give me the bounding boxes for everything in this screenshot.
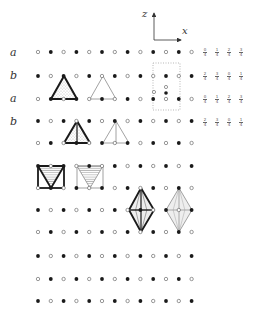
atom-filled bbox=[151, 186, 155, 190]
atom-open bbox=[36, 141, 39, 144]
atom-open bbox=[75, 74, 78, 77]
atom-open bbox=[177, 164, 180, 167]
atom-open bbox=[152, 74, 155, 77]
atom-filled bbox=[139, 299, 143, 303]
atom-open bbox=[88, 230, 91, 233]
atom-filled bbox=[139, 208, 143, 212]
atom-open bbox=[88, 186, 91, 189]
atom-filled bbox=[100, 50, 104, 54]
atom-open bbox=[139, 277, 142, 280]
tetrahedron-bold-1 bbox=[51, 76, 77, 99]
row-label: a bbox=[10, 93, 17, 104]
atom-open bbox=[164, 230, 167, 233]
atom-open bbox=[36, 230, 39, 233]
fraction-denominator: 4 bbox=[238, 53, 244, 57]
atom-filled bbox=[100, 230, 104, 234]
atom-filled bbox=[177, 141, 181, 145]
atom-filled bbox=[49, 230, 53, 234]
atom-open bbox=[190, 141, 193, 144]
atom-open bbox=[100, 254, 103, 257]
atom-open bbox=[100, 74, 103, 77]
atom-open bbox=[113, 186, 116, 189]
height-fraction: 04 bbox=[202, 95, 208, 104]
atom-filled bbox=[113, 119, 117, 123]
atom-open bbox=[88, 97, 91, 100]
atom-filled bbox=[177, 97, 181, 101]
atom-open bbox=[49, 119, 52, 122]
atom-filled bbox=[100, 186, 104, 190]
atom-open bbox=[62, 141, 65, 144]
atom-filled bbox=[126, 50, 130, 54]
atom-open bbox=[113, 50, 116, 53]
atom-open bbox=[88, 141, 91, 144]
atom-filled bbox=[126, 277, 130, 281]
atom-open bbox=[62, 277, 65, 280]
atom-filled bbox=[151, 230, 155, 234]
atom-filled bbox=[139, 254, 143, 258]
atom-open bbox=[62, 50, 65, 53]
atom-filled bbox=[139, 74, 143, 78]
atom-open bbox=[139, 97, 142, 100]
crystal-diagram: z x a b a b 0414243424340414041424342434… bbox=[0, 0, 255, 312]
atom-filled bbox=[87, 164, 91, 168]
height-fraction: 14 bbox=[214, 48, 220, 57]
atom-open bbox=[113, 97, 116, 100]
height-fraction: 14 bbox=[214, 95, 220, 104]
height-fraction: 04 bbox=[202, 48, 208, 57]
atom-open bbox=[36, 97, 39, 100]
atom-open bbox=[126, 254, 129, 257]
square-thin-inverted-triangle bbox=[77, 166, 103, 188]
atom-filled bbox=[164, 91, 168, 95]
atom-filled bbox=[151, 141, 155, 145]
atom-filled bbox=[190, 208, 194, 212]
fraction-denominator: 4 bbox=[226, 123, 232, 127]
atom-filled bbox=[100, 97, 104, 101]
fraction-denominator: 4 bbox=[214, 77, 220, 81]
atom-filled bbox=[75, 50, 79, 54]
atom-open bbox=[190, 186, 193, 189]
atom-open bbox=[177, 299, 180, 302]
atom-filled bbox=[87, 74, 91, 78]
fraction-denominator: 4 bbox=[238, 77, 244, 81]
atom-open bbox=[190, 277, 193, 280]
atom-open bbox=[100, 299, 103, 302]
row-label: b bbox=[10, 70, 17, 81]
fraction-denominator: 4 bbox=[226, 53, 232, 57]
atom-open bbox=[177, 119, 180, 122]
atom-open bbox=[49, 74, 52, 77]
atom-filled bbox=[62, 299, 66, 303]
atom-filled bbox=[113, 254, 117, 258]
atom-open bbox=[36, 50, 39, 53]
z-axis-label: z bbox=[142, 9, 147, 19]
atom-filled bbox=[164, 164, 168, 168]
atom-open bbox=[164, 85, 167, 88]
fraction-denominator: 4 bbox=[238, 123, 244, 127]
fraction-denominator: 4 bbox=[202, 123, 208, 127]
atom-filled bbox=[139, 164, 143, 168]
fraction-denominator: 4 bbox=[214, 100, 220, 104]
atom-filled bbox=[164, 299, 168, 303]
atom-open bbox=[49, 254, 52, 257]
atom-open bbox=[190, 97, 193, 100]
atom-open bbox=[164, 97, 167, 100]
atom-filled bbox=[36, 208, 40, 212]
atom-filled bbox=[87, 208, 91, 212]
atom-open bbox=[62, 97, 65, 100]
atom-filled bbox=[113, 299, 117, 303]
atom-open bbox=[152, 164, 155, 167]
height-fraction: 34 bbox=[238, 95, 244, 104]
atom-filled bbox=[49, 186, 53, 190]
atom-filled bbox=[62, 164, 66, 168]
atom-open bbox=[100, 119, 103, 122]
atom-filled bbox=[190, 254, 194, 258]
atom-filled bbox=[190, 164, 194, 168]
atom-filled bbox=[49, 277, 53, 281]
atom-filled bbox=[151, 277, 155, 281]
fraction-denominator: 4 bbox=[202, 77, 208, 81]
atom-open bbox=[88, 277, 91, 280]
atom-open bbox=[152, 208, 155, 211]
atom-filled bbox=[62, 254, 66, 258]
atom-open bbox=[100, 208, 103, 211]
atom-filled bbox=[49, 97, 53, 101]
atom-open bbox=[152, 254, 155, 257]
